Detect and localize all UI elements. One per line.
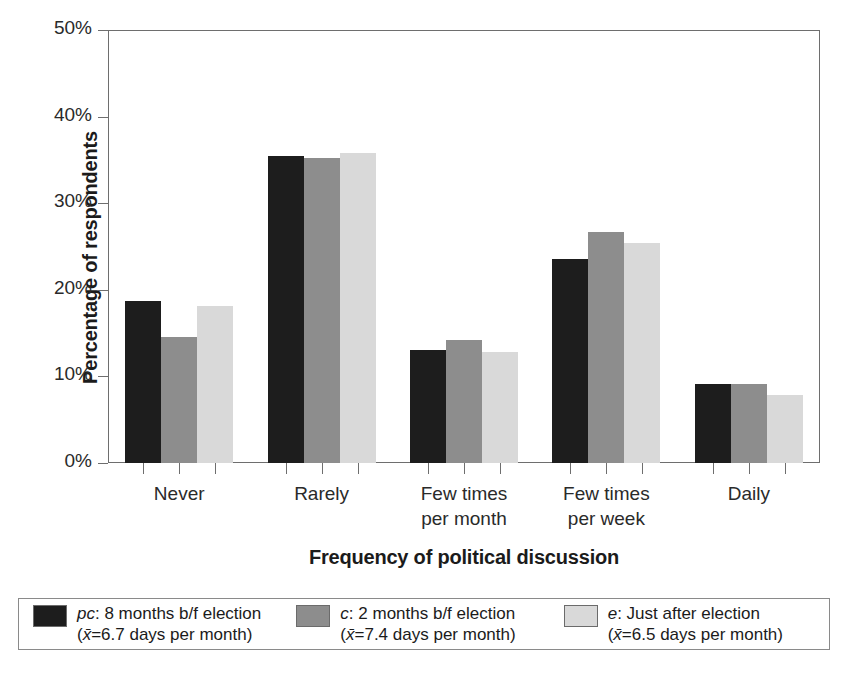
legend-mean-note: (x̄=6.5 days per month)	[608, 624, 783, 645]
bar	[268, 156, 304, 463]
legend-series-name: e: Just after election	[608, 603, 783, 624]
x-axis-tick-mark	[785, 463, 786, 474]
bar	[552, 259, 588, 463]
x-axis-tick-mark	[749, 463, 750, 474]
x-axis-tick-mark	[358, 463, 359, 474]
legend-series-name: pc: 8 months b/f election	[77, 603, 261, 624]
x-axis-tick-mark	[215, 463, 216, 474]
y-axis-tick-mark	[98, 376, 108, 377]
y-axis-tick-label: 10%	[54, 363, 92, 385]
legend-entry: e: Just after election(x̄=6.5 days per m…	[556, 603, 829, 645]
x-axis-tick-mark	[143, 463, 144, 474]
y-axis-tick-label: 0%	[65, 450, 92, 472]
legend-label: c: 2 months b/f election(x̄=7.4 days per…	[340, 603, 515, 645]
y-axis-tick-label: 50%	[54, 17, 92, 39]
bar	[767, 395, 803, 463]
legend-xbar-symbol: x̄	[613, 625, 622, 644]
legend-series-description: : 8 months b/f election	[95, 604, 261, 623]
x-axis-category-label: Rarely	[250, 481, 392, 506]
x-axis-tick-mark	[500, 463, 501, 474]
x-axis-category-label: Few times per month	[393, 481, 535, 531]
legend-entry: pc: 8 months b/f election(x̄=6.7 days pe…	[19, 603, 290, 645]
legend-label: pc: 8 months b/f election(x̄=6.7 days pe…	[77, 603, 261, 645]
legend-series-description: : Just after election	[617, 604, 760, 623]
bar	[731, 384, 767, 463]
y-axis-tick-mark	[98, 117, 108, 118]
x-axis-tick-mark	[713, 463, 714, 474]
legend-mean-note: (x̄=7.4 days per month)	[340, 624, 515, 645]
bar	[304, 158, 340, 463]
x-axis-tick-mark	[642, 463, 643, 474]
legend: pc: 8 months b/f election(x̄=6.7 days pe…	[18, 598, 830, 650]
x-axis-tick-mark	[606, 463, 607, 474]
legend-mean-note: (x̄=6.7 days per month)	[77, 624, 261, 645]
bar	[588, 232, 624, 463]
bar	[161, 337, 197, 463]
y-axis-tick-label: 40%	[54, 104, 92, 126]
x-axis-tick-mark	[322, 463, 323, 474]
bar	[125, 301, 161, 463]
legend-mean-value: =6.5 days per month)	[622, 625, 783, 644]
legend-mean-value: =7.4 days per month)	[355, 625, 516, 644]
x-axis-tick-mark	[428, 463, 429, 474]
legend-color-swatch	[33, 605, 67, 627]
x-axis-category-label: Never	[108, 481, 250, 506]
legend-mean-value: =6.7 days per month)	[91, 625, 252, 644]
x-axis-category-label: Few times per week	[535, 481, 677, 531]
legend-entry: c: 2 months b/f election(x̄=7.4 days per…	[290, 603, 555, 645]
y-axis-tick-mark	[98, 203, 108, 204]
x-axis-tick-mark	[464, 463, 465, 474]
legend-xbar-symbol: x̄	[83, 625, 92, 644]
legend-series-code: pc	[77, 604, 95, 623]
bar	[197, 306, 233, 463]
bar	[410, 350, 446, 463]
x-axis-category-label: Daily	[678, 481, 820, 506]
bar	[482, 352, 518, 463]
bar	[340, 153, 376, 463]
x-axis-tick-mark	[570, 463, 571, 474]
x-axis-ticks	[108, 463, 820, 479]
legend-label: e: Just after election(x̄=6.5 days per m…	[608, 603, 783, 645]
y-axis-tick-label: 20%	[54, 277, 92, 299]
bar	[446, 340, 482, 463]
legend-series-description: : 2 months b/f election	[349, 604, 515, 623]
legend-series-code: e	[608, 604, 617, 623]
legend-xbar-symbol: x̄	[346, 625, 355, 644]
x-axis-title: Frequency of political discussion	[108, 546, 820, 569]
y-axis-tick-mark	[98, 463, 108, 464]
x-axis-tick-mark	[179, 463, 180, 474]
legend-entries: pc: 8 months b/f election(x̄=6.7 days pe…	[19, 599, 829, 649]
bar-chart-figure: Percentage of respondents 0%10%20%30%40%…	[0, 0, 848, 680]
legend-color-swatch	[564, 605, 598, 627]
y-axis-tick-mark	[98, 290, 108, 291]
bar	[624, 243, 660, 463]
x-axis-tick-mark	[286, 463, 287, 474]
y-axis-tick-label: 30%	[54, 190, 92, 212]
legend-series-name: c: 2 months b/f election	[340, 603, 515, 624]
legend-color-swatch	[296, 605, 330, 627]
bar	[695, 384, 731, 463]
y-axis-tick-mark	[98, 30, 108, 31]
bars-layer	[108, 30, 820, 463]
legend-series-code: c	[340, 604, 349, 623]
x-axis-category-labels: NeverRarelyFew times per monthFew times …	[108, 481, 820, 541]
